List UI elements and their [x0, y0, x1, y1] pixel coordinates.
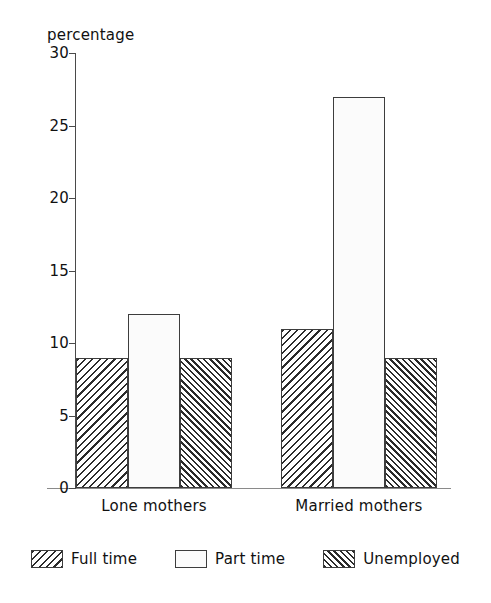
y-axis-tick-label: 5	[29, 409, 69, 424]
legend-item-unemployed[interactable]: Unemployed	[323, 550, 460, 568]
y-axis-tick	[69, 416, 76, 417]
legend-label: Unemployed	[363, 552, 460, 567]
legend-label: Full time	[71, 552, 137, 567]
y-axis-title: percentage	[47, 28, 134, 43]
y-axis-tick-label: 25	[29, 119, 69, 134]
legend-swatch-icon	[175, 550, 207, 568]
y-axis-tick-label: 15	[29, 264, 69, 279]
chart-legend: Full timePart timeUnemployed	[0, 550, 491, 568]
legend-item-full-time[interactable]: Full time	[31, 550, 137, 568]
bar-part-time-married-mothers	[333, 97, 385, 489]
y-axis-tick	[69, 271, 76, 272]
x-axis-line	[47, 488, 451, 489]
y-axis-tick	[69, 488, 76, 489]
x-axis-label-lone-mothers: Lone mothers	[64, 498, 244, 514]
legend-swatch-icon	[323, 550, 355, 568]
bar-unemployed-lone-mothers	[180, 358, 232, 489]
y-axis-tick	[69, 198, 76, 199]
legend-swatch-icon	[31, 550, 63, 568]
y-axis-tick	[69, 343, 76, 344]
bar-unemployed-married-mothers	[385, 358, 437, 489]
y-axis-tick	[69, 53, 76, 54]
legend-item-part-time[interactable]: Part time	[175, 550, 285, 568]
plot-area	[76, 53, 437, 488]
bar-chart: percentage 302520151050 Lone mothersMarr…	[0, 0, 491, 603]
y-axis-tick	[69, 126, 76, 127]
y-axis-tick-label: 0	[29, 481, 69, 496]
x-axis-label-married-mothers: Married mothers	[269, 498, 449, 514]
bar-full-time-married-mothers	[281, 329, 333, 489]
bar-part-time-lone-mothers	[128, 314, 180, 488]
bar-full-time-lone-mothers	[76, 358, 128, 489]
y-axis-tick-label: 30	[29, 46, 69, 61]
y-axis-tick-label: 10	[29, 336, 69, 351]
legend-label: Part time	[215, 552, 285, 567]
y-axis-tick-label: 20	[29, 191, 69, 206]
